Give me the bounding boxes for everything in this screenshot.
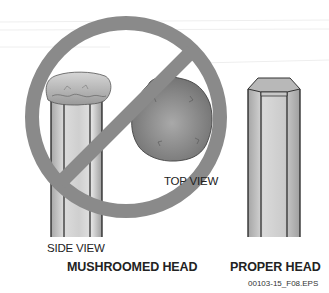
- proper-chisel: [248, 78, 300, 237]
- top-view-label: TOP VIEW: [164, 175, 218, 187]
- proper-head-caption: PROPER HEAD: [230, 260, 321, 274]
- figure-file-id: 00103-15_F08.EPS: [248, 279, 318, 288]
- mushroomed-head-caption: MUSHROOMED HEAD: [67, 260, 197, 274]
- side-view-label: SIDE VIEW: [47, 242, 105, 254]
- proper-head-chamfer: [248, 78, 300, 92]
- chisel-head-diagram: TOP VIEW SIDE VIEW MUSHROOMED HEAD PROPE…: [0, 0, 329, 293]
- mushroomed-cap: [46, 72, 111, 105]
